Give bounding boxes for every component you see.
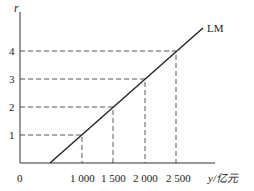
lm-label: LM	[207, 22, 224, 34]
x-tick-1000: 1 000	[70, 172, 95, 184]
guide-1000-1	[20, 135, 82, 163]
y-tick-3: 3	[9, 73, 15, 85]
guide-2000-3	[20, 79, 145, 163]
y-axis-label: r	[14, 1, 19, 15]
x-tick-2500: 2 500	[166, 172, 191, 184]
guide-1500-2	[20, 107, 113, 163]
x-tick-2000: 2 000	[133, 172, 158, 184]
y-tick-2: 2	[9, 101, 15, 113]
x-axis-label: y/亿元	[207, 172, 239, 184]
guide-2500-4	[20, 51, 176, 163]
lm-chart: r LM 4 3 2 1 0 1 000 1 500 2 000 2 500 y…	[0, 0, 254, 191]
y-tick-1: 1	[9, 129, 15, 141]
x-tick-1500: 1 500	[101, 172, 126, 184]
reference-dashes	[20, 51, 176, 163]
origin-label: 0	[17, 172, 23, 184]
y-tick-4: 4	[9, 45, 15, 57]
lm-curve	[50, 28, 203, 163]
